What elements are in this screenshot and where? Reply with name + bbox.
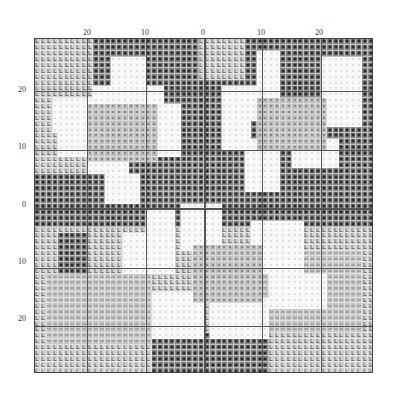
x-tick-label: 10 <box>257 29 265 37</box>
stitch-grid <box>34 38 373 373</box>
y-tick-label: 20 <box>18 315 26 323</box>
y-tick-label: 10 <box>18 258 26 266</box>
x-tick-label: 20 <box>315 29 323 37</box>
grid-line-vertical <box>87 39 88 373</box>
y-tick-label: 20 <box>18 86 26 94</box>
grid-line-vertical <box>321 39 322 373</box>
y-tick-label: 0 <box>22 201 26 209</box>
center-line-vertical <box>204 39 206 373</box>
y-tick-label: 10 <box>18 143 26 151</box>
grid-line-horizontal <box>35 326 373 327</box>
x-tick-label: 10 <box>141 29 149 37</box>
x-tick-label: 20 <box>83 29 91 37</box>
center-line-horizontal <box>35 208 373 210</box>
grid-line-horizontal <box>35 268 373 269</box>
grid-line-vertical <box>146 39 147 373</box>
x-tick-label: 0 <box>201 29 205 37</box>
grid-line-vertical <box>262 39 263 373</box>
cross-stitch-chart <box>34 38 373 373</box>
